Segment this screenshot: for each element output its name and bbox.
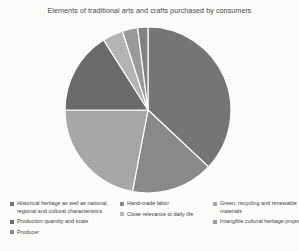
legend-item[interactable]: Green, recycling and renewable materials <box>213 200 299 215</box>
pie-slice-group <box>65 27 231 193</box>
legend-item[interactable]: Historical heritage as well as national,… <box>10 200 118 215</box>
legend-item-label: Intangible cultural heritage project <box>220 218 299 226</box>
legend-column-2: Hand-made laborClose relevance to daily … <box>120 200 212 221</box>
chart-page: Elements of traditional arts and crafts … <box>0 0 299 251</box>
legend-swatch-icon <box>10 202 14 206</box>
page-title: Elements of traditional arts and crafts … <box>0 6 299 15</box>
legend-item-label: Hand-made labor <box>127 200 169 208</box>
legend-item[interactable]: Intangible cultural heritage project <box>213 218 299 226</box>
legend-swatch-icon <box>10 220 14 224</box>
legend-item-label: Close relevance to daily life <box>127 211 193 219</box>
legend-swatch-icon <box>10 230 14 234</box>
legend-swatch-icon <box>213 220 217 224</box>
legend-column-3: Green, recycling and renewable materials… <box>213 200 299 229</box>
legend-swatch-icon <box>120 212 124 216</box>
chart-legend: Historical heritage as well as national,… <box>10 200 299 248</box>
legend-item-label: Producer <box>17 229 39 237</box>
legend-swatch-icon <box>120 202 124 206</box>
legend-item-label: Green, recycling and renewable materials <box>220 200 299 215</box>
legend-column-1: Historical heritage as well as national,… <box>10 200 118 239</box>
pie-chart <box>64 26 232 194</box>
legend-item[interactable]: Close relevance to daily life <box>120 211 212 219</box>
legend-item[interactable]: Producer <box>10 229 118 237</box>
legend-swatch-icon <box>213 202 217 206</box>
legend-item[interactable]: Production quantity and scale <box>10 218 118 226</box>
legend-item[interactable]: Hand-made labor <box>120 200 212 208</box>
legend-item-label: Historical heritage as well as national,… <box>17 200 118 215</box>
legend-item-label: Production quantity and scale <box>17 218 88 226</box>
pie-chart-svg <box>64 26 232 194</box>
